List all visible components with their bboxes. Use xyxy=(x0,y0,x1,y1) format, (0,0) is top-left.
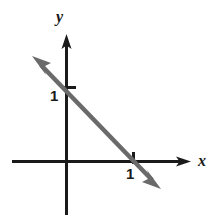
graph-figure: y x 1 1 xyxy=(0,0,216,223)
y-axis-label: y xyxy=(56,9,63,25)
plotted-line xyxy=(32,56,161,189)
y-axis-tick-label: 1 xyxy=(50,88,58,103)
x-axis-tick-label: 1 xyxy=(126,166,134,181)
coordinate-plane xyxy=(0,0,216,223)
x-axis-label: x xyxy=(198,153,206,169)
